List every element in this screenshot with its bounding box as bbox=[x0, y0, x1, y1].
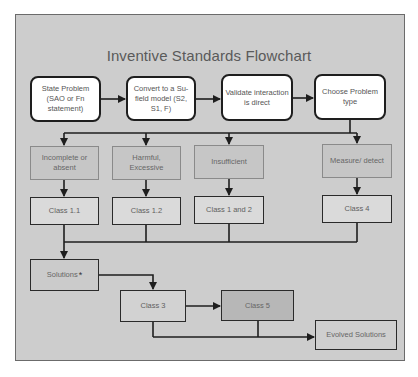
class-1-and-2-box[interactable]: Class 1 and 2 bbox=[194, 196, 264, 224]
problem-type-label: Harmful, Excessive bbox=[115, 153, 178, 173]
class-label: Class 3 bbox=[140, 301, 165, 311]
asterisk-marker: * bbox=[79, 270, 83, 280]
solutions-box[interactable]: Solutions* bbox=[30, 259, 99, 291]
problem-type-insufficient[interactable]: Insufficient bbox=[194, 145, 264, 179]
class-3-box[interactable]: Class 3 bbox=[120, 290, 186, 322]
problem-type-label: Incomplete or absent bbox=[33, 153, 96, 173]
class-1-2-box[interactable]: Class 1.2 bbox=[112, 197, 181, 225]
class-4-box[interactable]: Class 4 bbox=[322, 195, 392, 223]
step-label: State Problem (SAO or Fn statement) bbox=[34, 84, 97, 114]
problem-type-measure[interactable]: Measure/ detect bbox=[322, 144, 392, 178]
problem-type-harmful[interactable]: Harmful, Excessive bbox=[112, 146, 181, 180]
class-5-box[interactable]: Class 5 bbox=[221, 290, 294, 321]
class-label: Class 4 bbox=[344, 204, 369, 214]
step-label: Validate interaction is direct bbox=[225, 88, 289, 108]
step-validate[interactable]: Validate interaction is direct bbox=[221, 74, 293, 121]
class-label: Class 1 and 2 bbox=[206, 205, 252, 215]
step-convert-model[interactable]: Convert to a Su-field model (S2, S1, F) bbox=[126, 76, 196, 121]
class-label: Class 1.1 bbox=[49, 206, 80, 216]
step-label: Choose Problem type bbox=[318, 87, 382, 107]
problem-type-label: Measure/ detect bbox=[330, 156, 384, 166]
step-choose-type[interactable]: Choose Problem type bbox=[314, 74, 386, 120]
solutions-label: Solutions bbox=[47, 270, 78, 280]
step-label: Convert to a Su-field model (S2, S1, F) bbox=[130, 84, 192, 114]
problem-type-incomplete[interactable]: Incomplete or absent bbox=[30, 146, 99, 180]
evolved-label: Evolved Solutions bbox=[326, 330, 386, 340]
step-state-problem[interactable]: State Problem (SAO or Fn statement) bbox=[30, 76, 101, 122]
class-1-1-box[interactable]: Class 1.1 bbox=[30, 197, 99, 225]
problem-type-label: Insufficient bbox=[211, 157, 247, 167]
class-label: Class 5 bbox=[245, 301, 270, 311]
evolved-solutions-box[interactable]: Evolved Solutions bbox=[315, 320, 397, 350]
class-label: Class 1.2 bbox=[131, 206, 162, 216]
